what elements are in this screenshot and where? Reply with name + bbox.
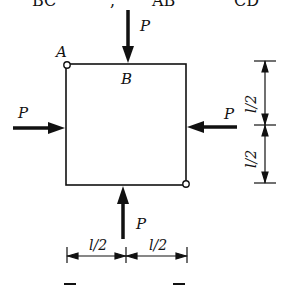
top-text-fragment: BC , AB CD	[32, 0, 259, 10]
label-b: B	[120, 70, 132, 88]
text-bc: BC	[32, 0, 56, 10]
force-bottom-arrow	[117, 186, 129, 239]
force-left-arrow	[13, 122, 65, 134]
dim-vertical-upper-label: l/2	[243, 95, 259, 113]
dim-vertical-lower-label: l/2	[243, 150, 259, 168]
hinge-a-icon	[64, 62, 70, 68]
horizontal-dimension	[67, 247, 187, 263]
text-cd: CD	[234, 0, 259, 10]
text-comma: ,	[110, 0, 115, 10]
label-a: A	[54, 43, 67, 61]
force-top-arrow	[122, 10, 134, 63]
caption-fragment	[64, 283, 185, 285]
text-ab: AB	[151, 0, 175, 10]
force-bottom-label: P	[135, 215, 147, 233]
force-top-label: P	[139, 17, 151, 35]
dim-horizontal-left-label: l/2	[89, 237, 107, 253]
hinge-corner-icon	[183, 181, 189, 187]
square-frame-diagram: BC , AB CD A B P P P P	[0, 0, 285, 288]
dim-horizontal-right-label: l/2	[149, 237, 167, 253]
force-right-label: P	[223, 105, 235, 123]
force-left-label: P	[17, 104, 29, 122]
